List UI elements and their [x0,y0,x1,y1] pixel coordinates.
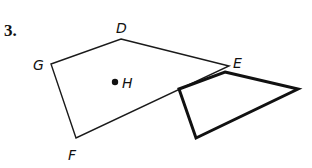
transformed-quadrilateral [179,72,298,138]
point-h-dot [112,79,118,85]
vertex-label-e: E [233,55,242,71]
point-label-h: H [122,75,133,91]
polygon-defg [51,39,229,138]
problem-number: 3. [4,21,17,40]
vertex-label-d: D [116,20,127,36]
vertex-label-g: G [33,57,44,73]
geometry-figure: 3. D E F G H [0,0,312,168]
vertex-label-f: F [68,147,77,163]
